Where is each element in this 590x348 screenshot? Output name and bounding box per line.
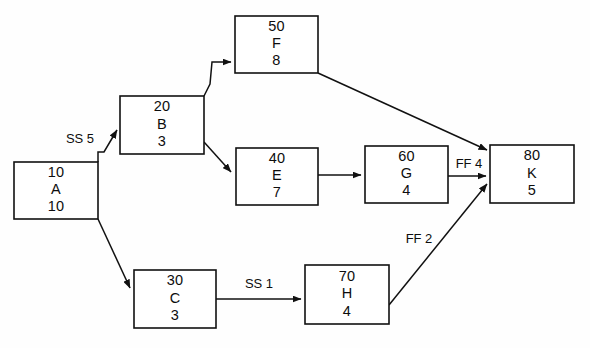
activity-node-f[interactable]: 50F8 xyxy=(235,16,318,73)
node-duration-b: 3 xyxy=(158,133,166,149)
edge-label-c-h: SS 1 xyxy=(245,276,273,291)
node-duration-f: 8 xyxy=(272,52,280,68)
activity-node-b[interactable]: 20B3 xyxy=(120,96,204,154)
network-diagram-svg: 10A1020B350F840E760G480K530C370H4 SS 5FF… xyxy=(0,0,590,348)
node-id-f: 50 xyxy=(268,18,285,34)
node-duration-g: 4 xyxy=(402,182,410,198)
activity-node-a[interactable]: 10A10 xyxy=(14,162,98,219)
activity-node-g[interactable]: 60G4 xyxy=(365,146,448,203)
node-duration-a: 10 xyxy=(48,198,65,214)
nodes-layer: 10A1020B350F840E760G480K530C370H4 xyxy=(14,16,574,328)
node-id-h: 70 xyxy=(339,268,356,284)
node-name-f: F xyxy=(272,35,281,51)
node-name-h: H xyxy=(342,285,353,301)
edge-a-b xyxy=(98,130,117,162)
node-id-k: 80 xyxy=(524,147,541,163)
node-duration-c: 3 xyxy=(171,307,179,323)
activity-node-c[interactable]: 30C3 xyxy=(134,270,216,328)
node-id-g: 60 xyxy=(398,148,415,164)
activity-node-e[interactable]: 40E7 xyxy=(236,148,318,205)
node-id-e: 40 xyxy=(269,150,286,166)
edge-f-k xyxy=(318,73,487,150)
node-name-c: C xyxy=(170,290,181,306)
node-name-b: B xyxy=(157,116,167,132)
node-name-e: E xyxy=(272,167,282,183)
edge-label-g-k: FF 4 xyxy=(456,156,483,171)
edge-label-h-k: FF 2 xyxy=(406,231,433,246)
node-name-g: G xyxy=(401,165,412,181)
edge-b-e xyxy=(204,142,231,172)
edge-label-a-b: SS 5 xyxy=(66,131,94,146)
node-id-c: 30 xyxy=(167,272,184,288)
activity-node-k[interactable]: 80K5 xyxy=(490,145,574,203)
edge-b-f xyxy=(204,62,231,96)
node-duration-e: 7 xyxy=(273,184,281,200)
node-name-k: K xyxy=(527,165,537,181)
node-duration-k: 5 xyxy=(528,182,536,198)
node-name-a: A xyxy=(51,181,61,197)
node-id-a: 10 xyxy=(48,164,65,180)
edge-a-c xyxy=(98,219,130,288)
node-id-b: 20 xyxy=(154,98,171,114)
activity-node-h[interactable]: 70H4 xyxy=(305,265,389,324)
node-duration-h: 4 xyxy=(343,303,351,319)
network-diagram-canvas: 10A1020B350F840E760G480K530C370H4 SS 5FF… xyxy=(0,0,590,348)
